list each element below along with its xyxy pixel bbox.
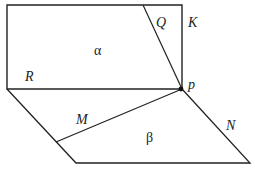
- label-n: N: [226, 119, 235, 133]
- line-m: [56, 89, 182, 142]
- label-alpha: α: [94, 44, 101, 58]
- plane-beta: [7, 89, 250, 163]
- label-beta: β: [146, 131, 153, 145]
- point-p: [179, 87, 184, 92]
- label-m: M: [76, 113, 88, 127]
- diagram-canvas: [0, 0, 255, 177]
- label-r: R: [25, 70, 34, 84]
- label-p: p: [188, 78, 195, 92]
- label-k: K: [188, 16, 197, 30]
- label-q: Q: [156, 16, 166, 30]
